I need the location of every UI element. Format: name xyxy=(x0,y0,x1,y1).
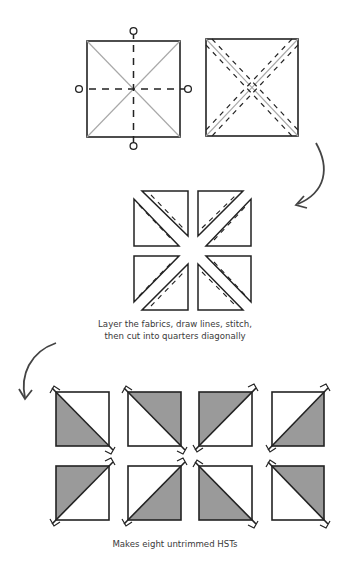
step3-caption: Makes eight untrimmed HSTs xyxy=(0,538,350,550)
marked-square xyxy=(76,28,192,150)
curved-arrow-right-down-icon xyxy=(296,143,324,208)
mark-circle-top xyxy=(130,28,137,35)
step2-caption-line2: then cut into quarters diagonally xyxy=(0,330,350,342)
mark-circle-left xyxy=(76,86,83,93)
step2-caption: Layer the fabrics, draw lines, stitch, t… xyxy=(0,318,350,342)
hst-8 xyxy=(266,460,330,528)
hst-2 xyxy=(122,386,187,454)
mark-circle-bottom xyxy=(130,143,137,150)
hst-3 xyxy=(193,384,258,452)
hst-4 xyxy=(266,384,330,452)
curved-arrow-left-down-icon xyxy=(19,343,56,399)
hst-6 xyxy=(122,458,187,526)
step2-caption-line1: Layer the fabrics, draw lines, stitch, xyxy=(0,318,350,330)
hst-diagram xyxy=(0,0,350,561)
hst-1 xyxy=(50,386,115,454)
stitched-square xyxy=(206,39,298,136)
cut-pieces xyxy=(134,191,251,310)
hst-7 xyxy=(193,460,258,528)
mark-circle-right xyxy=(185,86,192,93)
hst-5 xyxy=(50,458,115,526)
